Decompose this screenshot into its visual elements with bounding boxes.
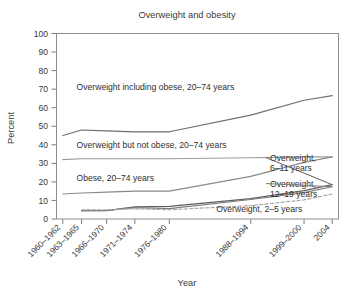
y-tick-label: 100 bbox=[34, 29, 49, 39]
y-tick-label: 50 bbox=[38, 121, 48, 131]
y-tick-label: 70 bbox=[38, 84, 48, 94]
y-axis-title: Percent bbox=[6, 112, 16, 144]
overweight-obesity-line-chart: Overweight and obesity Percent Year 0102… bbox=[0, 0, 350, 293]
y-tick-label: 10 bbox=[38, 196, 48, 206]
series-annotation: Obese, 20–74 years bbox=[77, 173, 154, 183]
y-tick-label: 60 bbox=[38, 103, 48, 113]
right-series-label: 12–19 years bbox=[270, 189, 317, 199]
y-tick-label: 20 bbox=[38, 177, 48, 187]
y-tick-label: 40 bbox=[38, 140, 48, 150]
x-tick-label: 1976–1980 bbox=[132, 222, 169, 259]
x-tick-label: 2004 bbox=[311, 222, 331, 242]
y-axis-tick-group: 0102030405060708090100 bbox=[34, 29, 57, 225]
y-tick-label: 80 bbox=[38, 66, 48, 76]
x-axis-title: Year bbox=[178, 278, 197, 288]
series-annotation: Overweight, 2–5 years bbox=[216, 204, 302, 214]
series-line bbox=[63, 96, 332, 136]
y-tick-label: 90 bbox=[38, 47, 48, 57]
x-tick-label: 1988–1994 bbox=[213, 222, 250, 259]
series-annotation: Overweight including obese, 20–74 years bbox=[77, 82, 235, 92]
y-tick-label: 0 bbox=[43, 214, 48, 224]
series-annotation: Overweight but not obese, 20–74 years bbox=[77, 140, 227, 150]
figure-container: Overweight and obesity Percent Year 0102… bbox=[0, 0, 350, 293]
x-axis-tick-group: 1960–19621963–19651966–19701971–19741976… bbox=[25, 219, 332, 259]
x-tick-label: 1999–2000 bbox=[267, 222, 304, 259]
y-tick-label: 30 bbox=[38, 158, 48, 168]
inline-annotation-group: Overweight including obese, 20–74 yearsO… bbox=[77, 82, 303, 214]
chart-title: Overweight and obesity bbox=[138, 10, 236, 20]
right-series-label: Overweight, bbox=[270, 179, 316, 189]
right-series-label: Overweight, bbox=[270, 153, 316, 163]
